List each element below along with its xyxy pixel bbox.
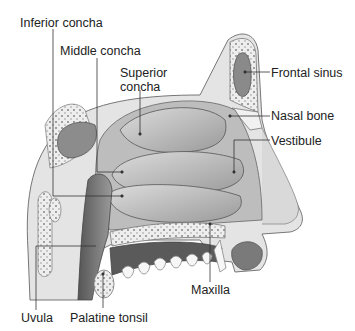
label-inferior-concha: Inferior concha	[20, 16, 103, 30]
label-palatine-tonsil: Palatine tonsil	[70, 311, 148, 325]
conchae	[108, 108, 244, 223]
frontal-sinus-cavity	[234, 53, 252, 97]
label-nasal-bone: Nasal bone	[271, 109, 334, 123]
nasal-cavity-illustration	[0, 0, 355, 331]
label-vestibule: Vestibule	[271, 134, 322, 148]
label-frontal-sinus: Frontal sinus	[271, 66, 343, 80]
label-maxilla: Maxilla	[191, 283, 230, 297]
label-uvula: Uvula	[21, 311, 53, 325]
label-middle-concha: Middle concha	[60, 44, 141, 58]
label-superior-concha-line2: concha	[120, 80, 160, 94]
label-superior-concha-line1: Superior	[120, 66, 167, 80]
